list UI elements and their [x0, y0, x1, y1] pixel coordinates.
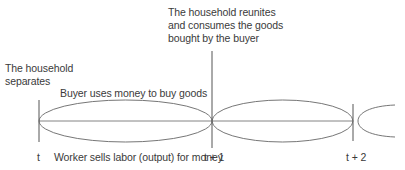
- label-buyer-uses-money: Buyer uses money to buy goods: [60, 87, 207, 100]
- time-label-t-plus-1: t + 1: [204, 151, 224, 164]
- household-cycle-diagram: The household separates The household re…: [0, 0, 405, 170]
- label-household-separates: The household separates: [5, 62, 73, 88]
- time-label-t-plus-2: t + 2: [346, 151, 366, 164]
- label-worker-sells-labor: Worker sells labor (output) for money: [54, 151, 223, 164]
- label-household-reunites: The household reunites and consumes the …: [168, 6, 283, 45]
- period-3-partial-arc: [358, 105, 395, 137]
- time-label-t: t: [37, 151, 40, 164]
